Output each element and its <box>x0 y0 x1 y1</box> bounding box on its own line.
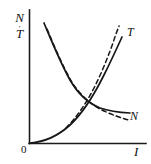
curve-t-dashed <box>66 26 119 128</box>
y-axis-label: N , T <box>12 11 27 40</box>
curve-n-dashed <box>47 29 129 120</box>
curve-label-n: N <box>130 110 138 122</box>
x-axis-label: I <box>134 145 138 158</box>
curve-label-t: T <box>127 26 134 38</box>
figure-container: N , T I 0 T N <box>0 0 151 164</box>
origin-label: 0 <box>21 144 27 155</box>
y-axis-label-denominator: T <box>12 27 27 40</box>
